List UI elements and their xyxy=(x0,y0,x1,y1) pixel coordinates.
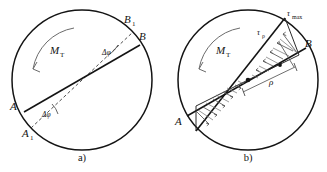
caption-panel-a: a) xyxy=(62,152,102,163)
point-label-a-A: A xyxy=(9,100,17,112)
stress-hatching-upper xyxy=(252,39,296,78)
tau-rho-label: τ xyxy=(257,28,261,37)
stress-arrows-lower xyxy=(197,85,241,126)
torque-subscript-a: T xyxy=(60,51,65,59)
torque-subscript-b: T xyxy=(226,51,231,59)
twist-angle-label-upper: Δφ xyxy=(101,48,111,57)
point-label-b-B: B xyxy=(305,37,312,49)
rho-dimension-tick-start xyxy=(242,88,245,96)
stress-profile-edge-lower xyxy=(196,80,248,106)
point-sublabel-a-A1: 1 xyxy=(30,134,34,142)
stress-profile-edge-upper xyxy=(248,55,299,80)
point-label-a-A1: A xyxy=(21,127,29,139)
torsion-figure: M T A A 1 B B 1 Δφ Δφ xyxy=(0,0,327,172)
torque-label-a: M xyxy=(49,44,60,56)
point-label-a-B1: B xyxy=(124,13,131,25)
panel-a-diagram: M T A A 1 B B 1 Δφ Δφ xyxy=(0,0,163,172)
stress-base-line xyxy=(196,18,285,131)
point-label-a-B: B xyxy=(139,30,146,42)
panel-b-diagram: τ max τ ρ ρ M T A B xyxy=(163,0,327,172)
stress-profile-tip-upper xyxy=(285,18,299,55)
center-dot-b xyxy=(246,78,251,83)
tau-max-label: τ xyxy=(287,9,291,18)
point-sublabel-a-B1: 1 xyxy=(132,20,136,28)
rho-point-dot xyxy=(278,63,282,67)
twisted-diameter-line xyxy=(24,45,140,112)
twist-angle-label-lower: Δφ xyxy=(41,110,51,119)
tau-rho-subscript: ρ xyxy=(262,33,265,39)
diameter-line-b xyxy=(187,48,306,116)
caption-panel-b: b) xyxy=(228,152,268,163)
rho-label: ρ xyxy=(268,77,274,87)
twist-angle-arc-lower xyxy=(52,104,58,114)
torque-label-b: M xyxy=(215,44,226,56)
point-label-b-A: A xyxy=(174,115,182,127)
tau-max-subscript: max xyxy=(292,14,302,20)
